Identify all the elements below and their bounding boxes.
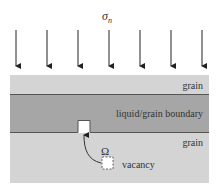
boundary-label: liquid/grain boundary [116, 108, 203, 119]
stress-label: σn [102, 9, 112, 25]
diagram: σn grain liquid/grain boundary grain Ω v… [0, 0, 218, 191]
bottom-grain-label: grain [182, 137, 203, 148]
vacancy-box [102, 157, 113, 169]
top-grain-layer [10, 75, 209, 95]
top-grain-label: grain [182, 80, 203, 91]
omega-label: Ω [101, 145, 109, 157]
vacancy-label: vacancy [122, 159, 155, 170]
stress-arrows [16, 30, 202, 66]
